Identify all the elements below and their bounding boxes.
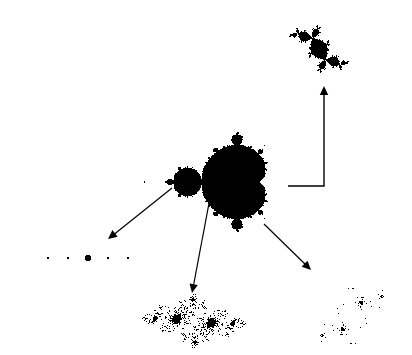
arrow-to-cantor-dust-head — [108, 230, 118, 239]
arrow-to-quad-clover-head — [320, 86, 328, 95]
arrow-to-diagonal-dendrite — [264, 224, 311, 270]
fractal-figure: Mandelbrot set with Julia set callouts B… — [0, 0, 412, 355]
arrow-to-double-spiral-head — [190, 283, 198, 293]
arrow-to-cantor-dust-line — [112, 188, 172, 236]
arrow-to-cantor-dust — [108, 188, 172, 239]
arrow-to-double-spiral — [190, 198, 210, 293]
arrow-to-double-spiral-line — [193, 198, 210, 288]
arrow-layer — [0, 0, 412, 355]
arrow-to-quad-clover — [288, 86, 328, 186]
arrow-to-quad-clover-line — [288, 90, 324, 186]
arrow-to-diagonal-dendrite-line — [264, 224, 307, 266]
